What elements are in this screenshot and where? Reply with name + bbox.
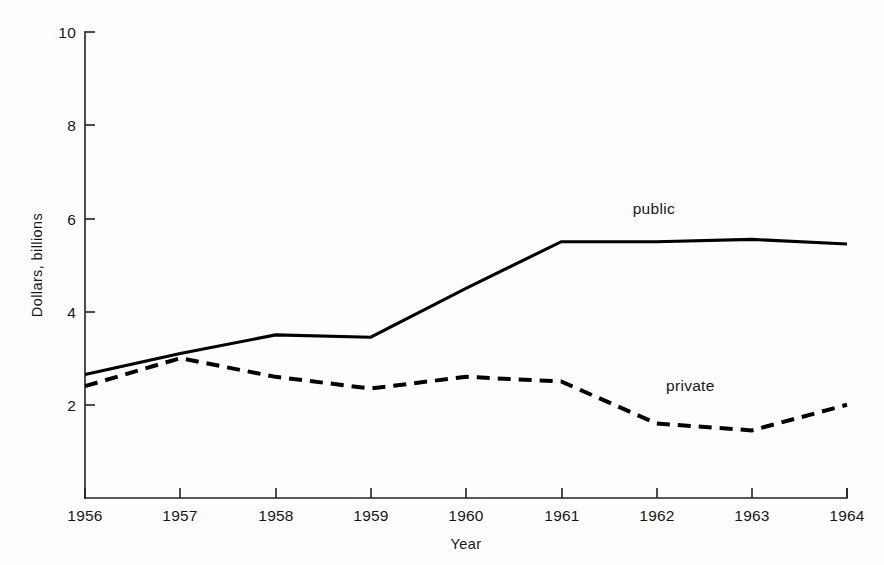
y-tick-label-4: 4 bbox=[67, 304, 76, 321]
x-tick-label-1957: 1957 bbox=[162, 507, 197, 524]
series-line-private bbox=[85, 358, 847, 430]
x-axis-title: Year bbox=[451, 536, 482, 552]
y-tick-label-10: 10 bbox=[58, 24, 76, 41]
x-tick-label-1963: 1963 bbox=[734, 507, 769, 524]
y-tick-label-8: 8 bbox=[67, 117, 76, 134]
series-group bbox=[85, 239, 847, 430]
x-tick-label-1959: 1959 bbox=[353, 507, 388, 524]
axis-group bbox=[85, 32, 847, 498]
x-tick-label-1956: 1956 bbox=[67, 507, 102, 524]
series-line-public bbox=[85, 239, 847, 374]
x-tick-label-1964: 1964 bbox=[829, 507, 864, 524]
line-chart-plot: 10 8 6 4 2 1956 1957 1958 1959 1960 1961 bbox=[0, 0, 884, 565]
series-annotations: public private bbox=[633, 200, 715, 394]
chart-figure: 10 8 6 4 2 1956 1957 1958 1959 1960 1961 bbox=[0, 0, 884, 565]
y-tick-label-2: 2 bbox=[67, 397, 76, 414]
x-tick-group bbox=[85, 488, 847, 498]
series-label-public: public bbox=[633, 200, 675, 217]
clipped-caption-region bbox=[0, 551, 884, 565]
x-tick-label-1962: 1962 bbox=[639, 507, 674, 524]
y-axis-title: Dollars, billions bbox=[29, 213, 45, 317]
y-tick-labels: 10 8 6 4 2 bbox=[58, 24, 76, 414]
x-tick-label-1960: 1960 bbox=[448, 507, 483, 524]
x-tick-label-1961: 1961 bbox=[544, 507, 579, 524]
x-tick-label-1958: 1958 bbox=[258, 507, 293, 524]
y-tick-group bbox=[85, 125, 95, 405]
x-tick-labels: 1956 1957 1958 1959 1960 1961 1962 1963 … bbox=[67, 507, 864, 524]
series-label-private: private bbox=[666, 377, 715, 394]
y-tick-label-6: 6 bbox=[67, 211, 76, 228]
